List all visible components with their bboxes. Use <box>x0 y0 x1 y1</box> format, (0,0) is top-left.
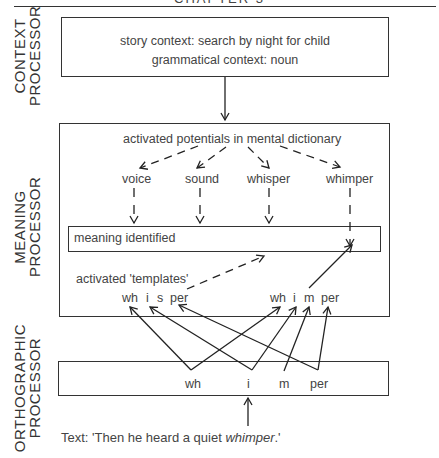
arrows-layer <box>0 0 439 458</box>
wh-to-whisper-wh-arrow <box>130 307 191 370</box>
i-to-whimper-i-arrow <box>252 307 296 370</box>
dict-to-whisper-arrow <box>248 147 269 168</box>
per-to-whimper-per-arrow <box>318 307 328 370</box>
whisper-template-to-meaning-arrow <box>187 256 264 289</box>
dict-to-sound-arrow <box>197 147 226 168</box>
whimper-template-to-meaning-arrow <box>309 245 352 288</box>
i-to-whisper-i-arrow <box>150 307 252 370</box>
m-to-whimper-m-arrow <box>284 307 309 371</box>
dict-to-voice-arrow <box>140 146 198 168</box>
dict-to-whimper-arrow <box>280 146 340 167</box>
